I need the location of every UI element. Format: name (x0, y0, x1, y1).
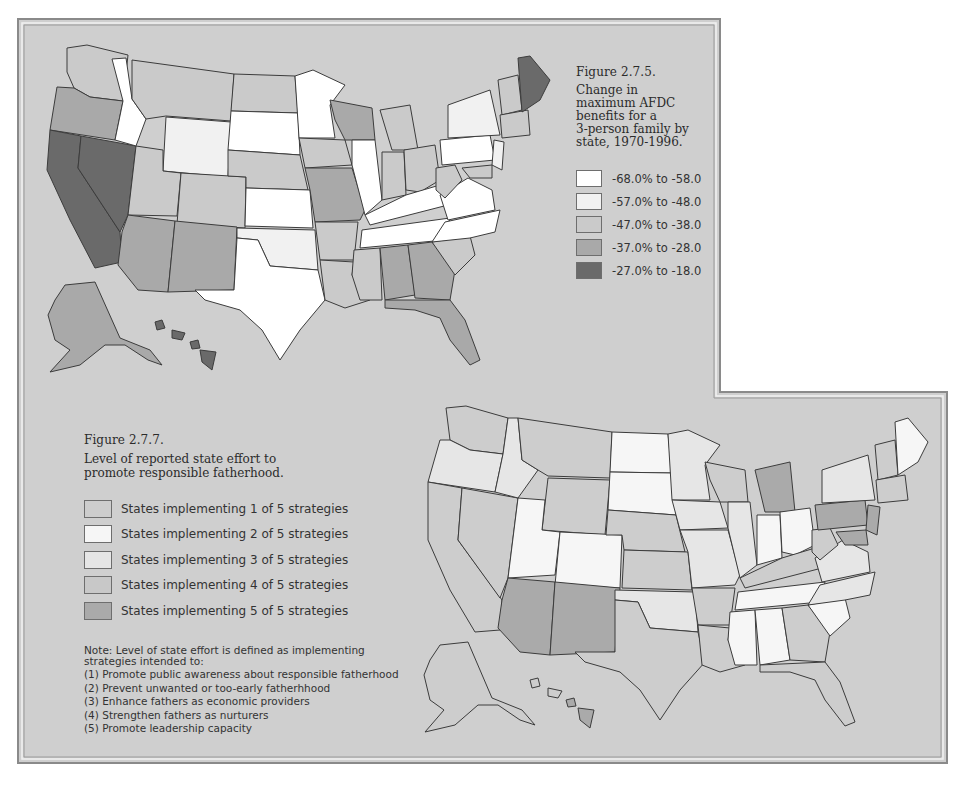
state-vt-nh (875, 440, 898, 480)
figure-2-7-7-legend: Figure 2.7.7. Level of reported state ef… (84, 432, 414, 735)
state-mi (755, 462, 795, 512)
figure-2-7-7-caption: Level of reported state effort to promot… (84, 452, 414, 480)
state-hi-4 (578, 708, 594, 728)
state-ms (728, 610, 757, 665)
state-pa (815, 500, 868, 530)
state-ny (822, 455, 875, 503)
legend-swatch (576, 170, 602, 187)
figure-2-7-7-label: Figure 2.7.7. (84, 432, 414, 448)
legend-item: States implementing 3 of 5 strategies (84, 547, 414, 573)
figure-2-7-5-label: Figure 2.7.5. (576, 64, 726, 80)
legend-swatch (84, 551, 112, 569)
state-ak (424, 642, 535, 732)
legend-item: States implementing 1 of 5 strategies (84, 496, 414, 522)
state-nj (866, 505, 880, 535)
state-wy (542, 478, 610, 535)
state-az (498, 578, 555, 655)
legend-item: -37.0% to -28.0 (576, 236, 726, 259)
legend-swatch (576, 193, 602, 210)
legend-swatch (576, 216, 602, 233)
state-co (555, 532, 622, 588)
legend-swatch (84, 602, 112, 620)
legend-item: States implementing 5 of 5 strategies (84, 598, 414, 624)
state-fl (760, 662, 855, 726)
state-oh (780, 508, 815, 555)
legend-swatch (84, 525, 112, 543)
legend-swatch (576, 239, 602, 256)
state-me (895, 418, 928, 475)
legend-list: -68.0% to -58.0 -57.0% to -48.0 -47.0% t… (576, 167, 726, 282)
state-wi (705, 462, 748, 502)
state-nm (550, 582, 620, 655)
legend-item: -57.0% to -48.0 (576, 190, 726, 213)
legend-item: States implementing 2 of 5 strategies (84, 522, 414, 548)
legend-swatch (576, 262, 602, 279)
state-sd (608, 472, 676, 515)
state-hi-2 (548, 688, 562, 698)
state-ma-ct-ri (876, 475, 908, 503)
state-ar (692, 588, 735, 625)
state-ks (622, 550, 692, 590)
figure-2-7-5-legend: Figure 2.7.5. Change in maximum AFDC ben… (576, 64, 726, 282)
legend-item: -68.0% to -58.0 (576, 167, 726, 190)
state-ia (672, 500, 728, 530)
state-hi-1 (530, 678, 540, 688)
legend-list: States implementing 1 of 5 strategies St… (84, 496, 414, 624)
figure-2-7-5-caption: Change in maximum AFDC benefits for a 3-… (576, 84, 726, 149)
legend-item: -47.0% to -38.0 (576, 213, 726, 236)
legend-item: States implementing 4 of 5 strategies (84, 573, 414, 599)
figure-panel: Figure 2.7.5. Change in maximum AFDC ben… (0, 0, 963, 786)
state-in (757, 515, 782, 565)
legend-swatch (84, 500, 112, 518)
strategy-notes: Note: Level of state effort is defined a… (84, 644, 414, 736)
state-nd (610, 432, 672, 473)
legend-item: -27.0% to -18.0 (576, 259, 726, 282)
legend-swatch (84, 576, 112, 594)
state-hi-3 (566, 698, 576, 707)
